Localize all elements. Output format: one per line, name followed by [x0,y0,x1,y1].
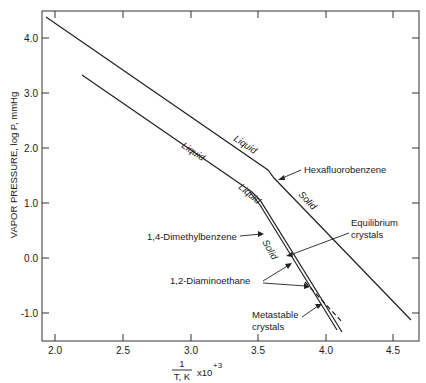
phase-label-liquid-hexafluorobenzene: Liquid [232,133,260,157]
annotation-dimethylbenzene: 1,4-Dimethylbenzene [147,231,237,242]
phase-label-solid-diaminoethane: Solid [260,238,280,262]
series-diaminoethane-metastable [305,282,343,323]
vapor-pressure-chart: 2.0 2.5 3.0 3.5 4.0 4.5 4.0 3.0 2.0 1.0 … [0,0,426,383]
x-tick-label: 3.5 [251,345,265,356]
arrow-dimethylbenzene [240,234,261,236]
arrowhead-icon [285,263,292,269]
x-axis-denominator: T, K [174,371,191,382]
x-axis-numerator: 1 [179,358,184,369]
annotation-diaminoethane: 1,2-Diaminoethane [170,275,250,286]
y-tick-label: -1.0 [21,308,39,319]
annotation-metastable-line1: Metastable [252,309,298,320]
x-tick-label: 2.0 [48,345,62,356]
y-tick-label: 1.0 [24,198,38,209]
phase-label-solid-hexafluorobenzene: Solid [297,189,320,212]
plot-frame [42,11,419,341]
arrowhead-icon [315,304,322,309]
annotation-metastable-line2: crystals [252,321,284,332]
annotation-hexafluorobenzene: Hexafluorobenzene [304,164,386,175]
arrow-metastable-crystals [302,306,318,317]
y-tick-label: 0.0 [24,253,38,264]
y-tick-label: 3.0 [24,88,38,99]
x-axis-multiplier: x10 [197,367,212,378]
arrow-equilibrium-crystals [290,233,349,255]
y-tick-label: 4.0 [24,33,38,44]
arrow-diaminoethane-2 [263,283,306,286]
x-ticks [55,11,393,341]
x-tick-label: 4.5 [386,345,400,356]
x-tick-labels: 2.0 2.5 3.0 3.5 4.0 4.5 [48,345,400,356]
arrowhead-icon [278,175,285,180]
arrow-diaminoethane-1 [263,265,289,281]
phase-label-liquid-diaminoethane: Liquid [237,181,264,206]
y-axis-title: VAPOR PRESSURE, log P, mmHg [8,92,19,238]
x-axis-title: 1 T, K x10 +3 [172,358,223,382]
y-tick-label: 2.0 [24,143,38,154]
series-dimethylbenzene [82,75,342,332]
annotation-equilibrium-line1: Equilibrium [351,217,398,228]
arrowhead-icon [258,231,264,237]
x-tick-label: 3.0 [184,345,198,356]
y-tick-labels: 4.0 3.0 2.0 1.0 0.0 -1.0 [21,33,39,319]
annotation-equilibrium-line2: crystals [351,229,383,240]
x-tick-label: 2.5 [116,345,130,356]
phase-label-liquid-dimethylbenzene: Liquid [180,140,208,164]
x-tick-label: 4.0 [319,345,333,356]
y-ticks [42,38,419,313]
x-axis-exponent: +3 [213,361,223,370]
